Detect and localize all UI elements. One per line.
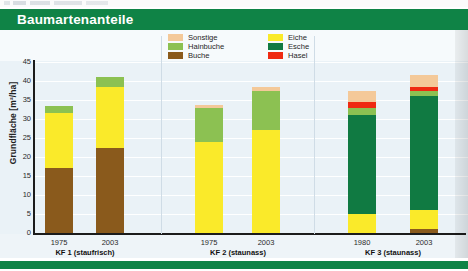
chart-legend: SonstigeHainbucheBucheEicheEscheHasel [168, 33, 368, 61]
legend-item-sonstige[interactable]: Sonstige [168, 33, 218, 41]
legend-item-hasel[interactable]: Hasel [268, 52, 307, 60]
legend-swatch-eiche [268, 34, 283, 41]
chart-area: 051015202530354045 Grundfläche [m²/ha] 1… [0, 30, 468, 258]
group-label: KF 1 (staufrisch) [10, 248, 160, 257]
legend-swatch-buche [168, 52, 183, 59]
legend-item-eiche[interactable]: Eiche [268, 33, 307, 41]
legend-swatch-hainbuche [168, 43, 183, 50]
legend-item-esche[interactable]: Esche [268, 42, 309, 50]
legend-label: Hainbuche [188, 42, 224, 51]
bar-segment-eiche [410, 210, 438, 229]
page-title: Baumartenanteile [8, 12, 134, 27]
bar-segment-hainbuche [348, 108, 376, 116]
group-label: KF 3 (staunass) [318, 248, 468, 257]
bar-segment-eiche [348, 214, 376, 233]
bar-segment-sonstige [410, 75, 438, 86]
header-banner-inner: Baumartenanteile [8, 10, 460, 29]
footer-bar [0, 261, 468, 269]
page-edge-shadow [455, 30, 468, 258]
x-tick-label: 2003 [243, 238, 289, 247]
bar-1-1975[interactable] [45, 106, 73, 233]
bar-2-2003[interactable] [252, 87, 280, 233]
bar-2-1975[interactable] [195, 105, 223, 233]
bar-segment-eiche [252, 130, 280, 233]
bar-segment-hainbuche [96, 77, 124, 87]
bar-segment-eiche [96, 87, 124, 148]
bar-segment-buche [96, 148, 124, 234]
bar-segment-eiche [45, 113, 73, 168]
legend-item-hainbuche[interactable]: Hainbuche [168, 42, 224, 50]
scan-artifact [4, 1, 124, 5]
chart-page: Baumartenanteile 051015202530354045 Grun… [0, 0, 468, 271]
bar-segment-esche [348, 115, 376, 214]
legend-swatch-hasel [268, 52, 283, 59]
x-tick-label: 1980 [339, 238, 385, 247]
legend-label: Buche [188, 51, 210, 60]
bar-1-2003[interactable] [96, 77, 124, 233]
legend-label: Hasel [288, 51, 307, 60]
x-tick-label: 2003 [87, 238, 133, 247]
group-label: KF 2 (staunass) [163, 248, 313, 257]
x-tick-label: 1975 [186, 238, 232, 247]
bar-segment-buche [45, 168, 73, 233]
bar-segment-hainbuche [195, 108, 223, 142]
page-top-strip [0, 0, 468, 7]
bar-segment-eiche [195, 142, 223, 233]
legend-item-buche[interactable]: Buche [168, 52, 210, 60]
legend-swatch-esche [268, 43, 283, 50]
legend-swatch-sonstige [168, 34, 183, 41]
x-tick-label: 2003 [401, 238, 447, 247]
bar-3-1980[interactable] [348, 91, 376, 233]
bar-segment-hainbuche [45, 106, 73, 114]
x-axis-labels: 197520031975200319802003KF 1 (staufrisch… [0, 235, 468, 258]
bar-segment-buche [410, 229, 438, 233]
legend-label: Sonstige [188, 33, 218, 42]
bar-segment-esche [410, 96, 438, 210]
legend-label: Eiche [288, 33, 307, 42]
bar-segment-sonstige [348, 91, 376, 102]
x-tick-label: 1975 [36, 238, 82, 247]
legend-label: Esche [288, 42, 309, 51]
bar-segment-hainbuche [252, 91, 280, 131]
bar-3-2003[interactable] [410, 75, 438, 233]
